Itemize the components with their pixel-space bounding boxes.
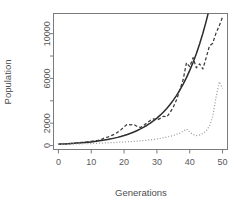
chart-figure: 02000600010000 01020304050 Generations P… bbox=[0, 0, 237, 203]
x-axis-title: Generations bbox=[115, 187, 167, 198]
x-tick-label: 0 bbox=[56, 157, 61, 167]
y-tick-label: 10000 bbox=[42, 21, 52, 46]
y-tick-label: 6000 bbox=[42, 68, 52, 88]
population-growth-line-chart: 02000600010000 01020304050 Generations P… bbox=[0, 0, 237, 203]
y-axis-tick-labels: 02000600010000 bbox=[42, 21, 52, 148]
x-tick-label: 40 bbox=[185, 157, 195, 167]
y-tick-label: 0 bbox=[42, 143, 52, 148]
x-tick-label: 30 bbox=[152, 157, 162, 167]
y-tick-label: 2000 bbox=[42, 113, 52, 133]
x-tick-label: 50 bbox=[218, 157, 228, 167]
x-tick-label: 10 bbox=[86, 157, 96, 167]
x-tick-label: 20 bbox=[119, 157, 129, 167]
y-axis-title: Population bbox=[2, 60, 13, 105]
figure-background bbox=[0, 0, 237, 203]
